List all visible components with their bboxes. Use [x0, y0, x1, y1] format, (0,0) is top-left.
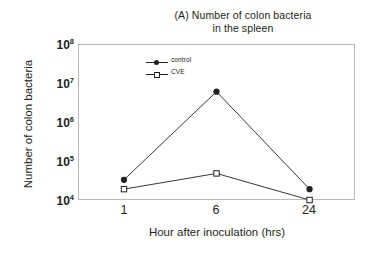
data-point-filled-circle[interactable]: [306, 186, 312, 192]
chart-figure: (A) Number of colon bacteria in the sple…: [0, 0, 381, 256]
data-point-open-square[interactable]: [214, 171, 219, 176]
data-point-filled-circle[interactable]: [121, 177, 127, 183]
data-point-open-square[interactable]: [307, 197, 312, 202]
data-point-open-square[interactable]: [121, 186, 126, 191]
chart-data-layer: [0, 0, 381, 256]
series-line-cve: [124, 173, 310, 200]
data-point-filled-circle[interactable]: [213, 89, 219, 95]
